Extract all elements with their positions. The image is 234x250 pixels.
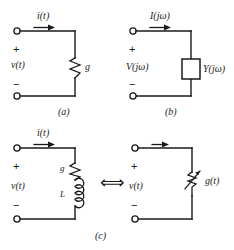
panel-c-right-terminal-top xyxy=(132,145,138,151)
panel-b-current-label: I(jω) xyxy=(150,11,170,21)
panel-c-right-variable-arrow-head xyxy=(195,171,200,175)
panel-a-current-arrow-head xyxy=(48,25,55,31)
panel-c-left-current-arrow-head xyxy=(48,142,55,148)
panel-b-admittance-box xyxy=(182,59,200,79)
panel-c-left-voltage-label: v(t) xyxy=(11,181,25,191)
circuit-figure xyxy=(0,0,234,250)
panel-b-terminal-bottom xyxy=(130,93,136,99)
panel-a-plus-sign: + xyxy=(13,44,19,55)
panel-c-left-resistor-label: g xyxy=(60,164,65,173)
panel-c-caption: (c) xyxy=(95,230,106,241)
panel-c-left-plus-sign: + xyxy=(13,161,19,172)
panel-b-current-arrow-head xyxy=(164,25,171,31)
panel-a-voltage-label: v(t) xyxy=(11,60,25,70)
equivalence-icon: ⟺ xyxy=(100,174,124,191)
panel-b-minus-sign: − xyxy=(129,79,135,90)
panel-b-voltage-label: V(jω) xyxy=(126,62,149,72)
panel-a-caption: (a) xyxy=(58,106,70,117)
panel-c-left-terminal-bottom xyxy=(14,216,20,222)
panel-c-left-inductor-symbol xyxy=(75,178,84,208)
panel-c-left-inductor-label: L xyxy=(60,190,65,199)
panel-a-minus-sign: − xyxy=(13,79,19,90)
panel-c-right-minus-sign: − xyxy=(131,200,137,211)
panel-c-right-element-label: g(t) xyxy=(205,176,219,186)
panel-b-plus-sign: + xyxy=(129,44,135,55)
panel-b-caption: (b) xyxy=(165,106,177,117)
panel-a-element-label: g xyxy=(85,62,90,72)
panel-b-terminal-top xyxy=(130,28,136,34)
panel-c-left-minus-sign: − xyxy=(13,200,19,211)
panel-a-terminal-bottom xyxy=(14,93,20,99)
panel-c-right-terminal-bottom xyxy=(132,216,138,222)
panel-a-resistor-symbol xyxy=(70,58,80,78)
panel-c-right-plus-sign: + xyxy=(131,161,137,172)
panel-a-current-label: i(t) xyxy=(37,11,49,21)
panel-b-element-label: Y(jω) xyxy=(203,64,225,74)
panel-c-left-resistor-symbol xyxy=(70,163,80,180)
panel-c-right-current-arrow-head xyxy=(162,142,169,148)
panel-c-left-terminal-top xyxy=(14,145,20,151)
panel-c-left-current-label: i(t) xyxy=(37,128,49,138)
panel-c-right-voltage-label: v(t) xyxy=(129,181,143,191)
panel-a-terminal-top xyxy=(14,28,20,34)
